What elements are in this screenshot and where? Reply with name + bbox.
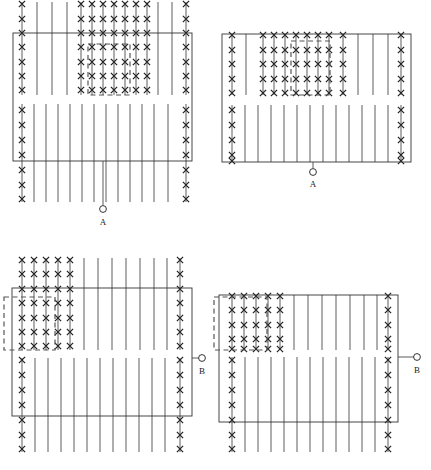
terminal-label: B	[199, 366, 205, 376]
winding-diagram-figure: AABB	[0, 0, 431, 470]
terminal-circle-icon	[199, 355, 206, 362]
terminal-circle-icon	[100, 206, 107, 213]
terminal-circle-icon	[414, 354, 421, 361]
figure-background	[0, 0, 431, 470]
terminal-label: A	[100, 217, 107, 227]
terminal-circle-icon	[310, 169, 317, 176]
terminal-label: B	[414, 365, 420, 375]
terminal-label: A	[310, 179, 317, 189]
